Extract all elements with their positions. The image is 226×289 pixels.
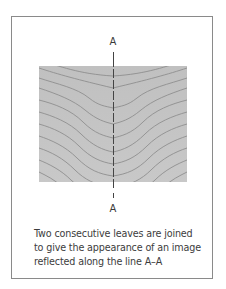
axis-dash-bottom — [113, 193, 114, 198]
axis-label-bottom: A — [103, 204, 123, 214]
axis-label-top: A — [103, 37, 123, 47]
axis-line-a-a — [113, 58, 114, 190]
figure-caption: Two consecutive leaves are joined to giv… — [34, 227, 204, 269]
